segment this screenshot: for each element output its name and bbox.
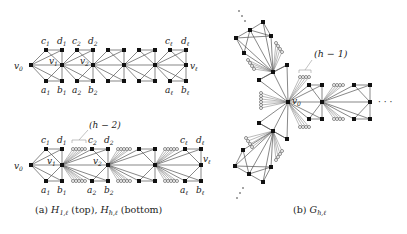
label-c2: c2: [88, 135, 97, 146]
label-al: aℓ: [165, 85, 173, 96]
h-minus-1-label: (h − 1): [314, 48, 348, 59]
lower-arm: [235, 102, 288, 182]
label-bl: bℓ: [196, 185, 205, 196]
label-a1: a1: [41, 85, 50, 96]
label-v0: v0: [14, 61, 23, 72]
label-c1: c1: [41, 135, 50, 146]
label-a2: a2: [72, 85, 81, 96]
label-v0: v0: [14, 161, 23, 172]
h-minus-2-label: (h − 2): [89, 120, 121, 130]
annotation-h-minus-1: (h − 1): [299, 48, 348, 73]
upper-arm: [236, 22, 288, 110]
segment: [124, 50, 155, 81]
label-dl: dℓ: [196, 135, 205, 146]
caption-a: (a) H1,ℓ (top), Hh,ℓ (bottom): [35, 204, 162, 217]
caption-b: (b) Gh,ℓ: [293, 204, 326, 217]
label-cl: cℓ: [165, 36, 173, 47]
segment: [93, 50, 124, 81]
label-b1: b1: [57, 85, 67, 96]
vertex-labels: v0 v1 v2 vℓ c1 d1 c2 d2 cℓ dℓ a1 b1 a2 b…: [14, 135, 211, 196]
label-cl: cℓ: [180, 135, 188, 146]
label-vl: vℓ: [190, 61, 198, 72]
label-b1: b1: [57, 185, 67, 196]
ellipsis-right: · · ·: [378, 97, 392, 107]
graph-h1l: v0 v1 v2 vℓ c1 d1 c2 d2 cℓ dℓ a1 b1 a2 b…: [14, 36, 198, 96]
label-bl: bℓ: [181, 85, 190, 96]
label-v0: v0: [292, 96, 301, 107]
figure-canvas: v0 v1 v2 vℓ c1 d1 c2 d2 cℓ dℓ a1 b1 a2 b…: [0, 0, 407, 234]
graph-hhl: (h − 2) v0 v1 v2 vℓ c1 d1 c2 d2 c: [14, 120, 211, 196]
label-b2: b2: [88, 85, 98, 96]
label-v1: v1: [49, 56, 58, 67]
label-al: aℓ: [180, 185, 188, 196]
label-a2: a2: [87, 185, 96, 196]
label-v2: v2: [80, 56, 89, 67]
segment: [155, 50, 186, 81]
label-d2: d2: [104, 135, 114, 146]
graph-ghl: · · · v0 (h − 1): [233, 10, 392, 199]
label-d2: d2: [88, 36, 98, 47]
vertex-labels: v0 v1 v2 vℓ c1 d1 c2 d2 cℓ dℓ a1 b1 a2 b…: [14, 36, 198, 96]
label-d1: d1: [57, 36, 67, 47]
label-b2: b2: [104, 185, 114, 196]
label-c1: c1: [41, 36, 50, 47]
label-dl: dℓ: [181, 36, 190, 47]
label-a1: a1: [41, 185, 50, 196]
label-c2: c2: [72, 36, 81, 47]
label-vl: vℓ: [203, 154, 211, 165]
label-d1: d1: [57, 135, 67, 146]
